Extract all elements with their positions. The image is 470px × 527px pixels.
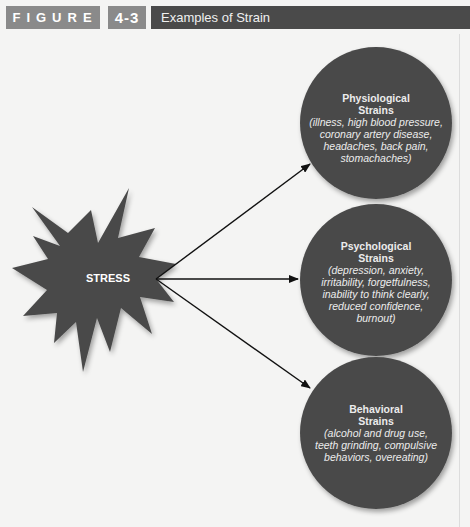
psychological-detail: (depression, anxiety, xyxy=(306,264,446,276)
behavioral-detail: teeth grinding, compulsive xyxy=(306,439,446,451)
physiological-title-2: Strains xyxy=(306,104,446,116)
psychological-detail: reduced confidence, xyxy=(306,300,446,312)
stress-label: STRESS xyxy=(78,272,138,284)
physiological-title-1: Physiological xyxy=(306,92,446,104)
psychological-title-1: Psychological xyxy=(306,240,446,252)
physiological-detail: (illness, high blood pressure, xyxy=(306,116,446,128)
behavioral-detail: (alcohol and drug use, xyxy=(306,427,446,439)
physiological-detail: stomachaches) xyxy=(306,152,446,164)
arrow-to-behavioral xyxy=(156,279,310,388)
physiological-text: Physiological Strains (illness, high blo… xyxy=(306,92,446,164)
behavioral-title-1: Behavioral xyxy=(306,403,446,415)
behavioral-text: Behavioral Strains (alcohol and drug use… xyxy=(306,403,446,463)
arrow-to-physiological xyxy=(156,164,310,279)
psychological-detail: irritability, forgetfulness, xyxy=(306,276,446,288)
psychological-detail: burnout) xyxy=(306,312,446,324)
psychological-title-2: Strains xyxy=(306,252,446,264)
behavioral-detail: behaviors, overeating) xyxy=(306,451,446,463)
psychological-detail: inability to think clearly, xyxy=(306,288,446,300)
psychological-text: Psychological Strains (depression, anxie… xyxy=(306,240,446,324)
behavioral-title-2: Strains xyxy=(306,415,446,427)
physiological-detail: headaches, back pain, xyxy=(306,140,446,152)
physiological-detail: coronary artery disease, xyxy=(306,128,446,140)
